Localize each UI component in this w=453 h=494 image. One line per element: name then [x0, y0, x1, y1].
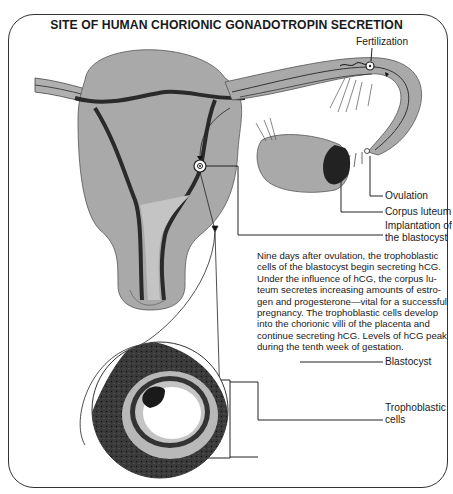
label-ovulation: Ovulation: [385, 190, 428, 202]
ovum-icon: [365, 149, 370, 154]
description-paragraph: Nine days after ovulation, the trophobla…: [257, 250, 447, 353]
label-blastocyst: Blastocyst: [385, 356, 431, 368]
uterus: [75, 50, 245, 310]
ovary: [256, 118, 370, 192]
label-implantation-1: Implantation of: [385, 220, 452, 232]
label-implantation-2: the blastocyst: [385, 232, 447, 244]
label-corpus-luteum: Corpus luteum: [385, 206, 451, 218]
label-trophoblastic-2: cells: [385, 414, 405, 426]
label-trophoblastic-1: Trophoblastic: [385, 402, 446, 414]
magnified-blastocyst: [80, 340, 228, 482]
label-fertilization: Fertilization: [356, 36, 408, 48]
